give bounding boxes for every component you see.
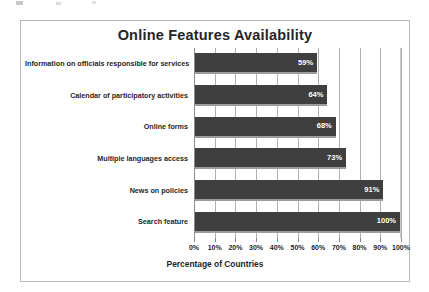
bar-value-label: 68% <box>317 122 336 130</box>
scan-artifact <box>92 1 96 4</box>
x-tick-mark <box>380 238 381 242</box>
x-tick-mark <box>235 238 236 242</box>
category-label: Online forms <box>25 123 188 130</box>
category-axis-labels: Information on officials responsible for… <box>25 48 192 238</box>
category-label: Information on officials responsible for… <box>25 60 188 67</box>
bar-slot: 64% <box>195 80 400 112</box>
x-tick-mark <box>298 238 299 242</box>
bar-value-label: 59% <box>298 59 317 67</box>
bar-slot: 100% <box>195 206 400 238</box>
scan-artifact <box>56 2 61 5</box>
bar-value-label: 64% <box>308 91 327 99</box>
bar-value-label: 100% <box>377 217 400 225</box>
bar[interactable]: 68% <box>195 117 336 138</box>
x-tick-label: 20% <box>228 244 242 251</box>
bar[interactable]: 59% <box>195 53 317 74</box>
x-tick-mark <box>318 238 319 242</box>
category-label: News on policies <box>25 187 188 194</box>
bar-value-label: 73% <box>327 154 346 162</box>
x-tick-mark <box>215 238 216 242</box>
bar[interactable]: 91% <box>195 180 383 201</box>
x-axis-title: Percentage of Countries <box>21 259 409 269</box>
chart-frame: Online Features Availability Information… <box>20 20 410 282</box>
bar-value-label: 91% <box>364 186 383 194</box>
bar-slot: 73% <box>195 143 400 175</box>
x-tick-mark <box>401 238 402 242</box>
bar-slot: 59% <box>195 48 400 80</box>
x-tick-label: 0% <box>189 244 199 251</box>
category-label: Multiple languages access <box>25 155 188 162</box>
x-tick-mark <box>194 238 195 242</box>
x-tick-label: 70% <box>332 244 346 251</box>
bar[interactable]: 64% <box>195 85 327 106</box>
bar[interactable]: 100% <box>195 212 400 233</box>
bar[interactable]: 73% <box>195 148 346 169</box>
gridline <box>401 48 402 238</box>
x-tick-label: 100% <box>392 244 410 251</box>
chart-title: Online Features Availability <box>21 27 409 43</box>
x-axis: 0%10%20%30%40%50%60%70%80%90%100% <box>194 238 401 256</box>
x-tick-label: 90% <box>373 244 387 251</box>
bar-series: 59%64%68%73%91%100% <box>195 48 400 238</box>
bar-slot: 68% <box>195 111 400 143</box>
x-tick-mark <box>277 238 278 242</box>
bar-slot: 91% <box>195 175 400 207</box>
x-tick-label: 10% <box>208 244 222 251</box>
x-tick-mark <box>339 238 340 242</box>
x-tick-label: 50% <box>290 244 304 251</box>
category-label: Calendar of participatory activities <box>25 92 188 99</box>
x-tick-label: 30% <box>249 244 263 251</box>
category-label: Search feature <box>25 218 188 225</box>
x-tick-label: 40% <box>270 244 284 251</box>
x-tick-label: 80% <box>353 244 367 251</box>
scan-artifact <box>16 1 23 5</box>
x-tick-label: 60% <box>311 244 325 251</box>
x-tick-mark <box>256 238 257 242</box>
x-tick-mark <box>360 238 361 242</box>
plot-area: 59%64%68%73%91%100% <box>194 48 401 238</box>
